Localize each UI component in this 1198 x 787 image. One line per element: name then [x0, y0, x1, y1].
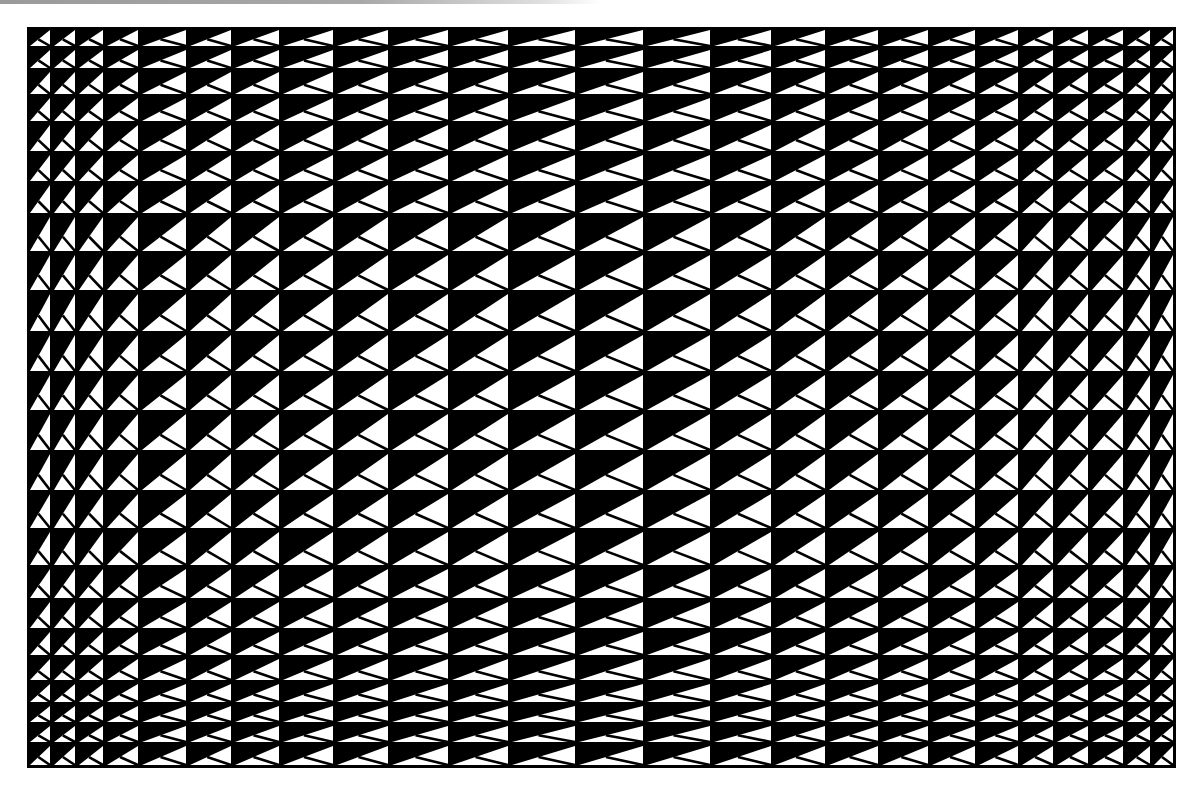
op-art-triangle-grid: [0, 0, 1198, 787]
triangle-cell-grid: [28, 28, 1175, 767]
